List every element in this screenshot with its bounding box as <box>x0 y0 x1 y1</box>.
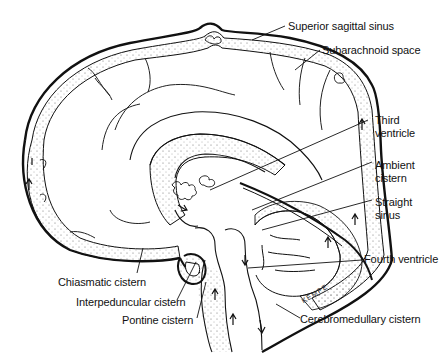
label-third-ventricle-line2: ventricle <box>375 127 415 140</box>
label-straight-sinus-line1: Straight <box>375 196 412 209</box>
label-subarachnoid-space: Subarachnoid space <box>322 44 421 57</box>
label-pontine-cistern: Pontine cistern <box>122 314 193 327</box>
label-ambient-cistern-line1: Ambient <box>375 159 415 172</box>
label-interpeduncular-cistern: Interpeduncular cistern <box>76 296 186 309</box>
label-third-ventricle-line1: Third <box>375 114 400 127</box>
label-superior-sagittal-sinus: Superior sagittal sinus <box>288 20 394 33</box>
label-ambient-cistern-line2: cistern <box>375 172 407 185</box>
label-cerebromedullary-cistern: Cerebromedullary cistern <box>300 313 420 326</box>
label-fourth-ventricle: Fourth ventricle <box>364 253 438 266</box>
label-straight-sinus-line2: sinus <box>375 209 400 222</box>
label-chiasmatic-cistern: Chiasmatic cistern <box>58 276 146 289</box>
pituitary <box>178 254 205 284</box>
choroid-plexus <box>172 176 215 200</box>
